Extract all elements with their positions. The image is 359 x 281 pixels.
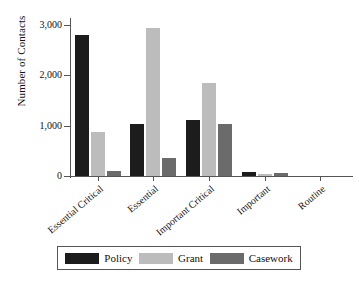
bar-casework bbox=[162, 158, 176, 176]
bar-group bbox=[242, 20, 288, 176]
bar-grant bbox=[202, 83, 216, 176]
bar-policy bbox=[75, 35, 89, 176]
bar-casework bbox=[218, 124, 232, 176]
x-axis-tick bbox=[209, 176, 210, 181]
x-axis-tick bbox=[320, 176, 321, 181]
bar-group bbox=[130, 20, 176, 176]
bar-policy bbox=[130, 124, 144, 176]
y-axis-tick-label: 0 bbox=[2, 171, 62, 181]
x-axis-line bbox=[70, 176, 353, 177]
y-axis-tick-label-wrap: 2,000 bbox=[0, 70, 62, 80]
bar-group bbox=[75, 20, 121, 176]
legend-label: Policy bbox=[104, 253, 132, 264]
bar-policy bbox=[242, 172, 256, 176]
legend-item[interactable]: Policy bbox=[65, 253, 132, 264]
legend-swatch-icon bbox=[65, 253, 99, 264]
bar-policy bbox=[186, 120, 200, 176]
legend-item[interactable]: Casework bbox=[210, 253, 293, 264]
bar-group bbox=[297, 20, 343, 176]
y-axis-tick-label: 3,000 bbox=[2, 20, 62, 30]
bar-grant bbox=[146, 28, 160, 176]
x-axis-tick bbox=[265, 176, 266, 181]
plot-area bbox=[70, 20, 348, 176]
x-axis-tick bbox=[153, 176, 154, 181]
bar-casework bbox=[107, 171, 121, 176]
legend-label: Grant bbox=[178, 253, 203, 264]
legend-swatch-icon bbox=[210, 253, 244, 264]
bar-group bbox=[186, 20, 232, 176]
legend-item[interactable]: Grant bbox=[139, 253, 203, 264]
y-axis-tick-label-wrap: 0 bbox=[0, 171, 62, 181]
x-axis-tick bbox=[98, 176, 99, 181]
bar-casework bbox=[274, 173, 288, 176]
legend-swatch-icon bbox=[139, 253, 173, 264]
chart-legend: PolicyGrantCasework bbox=[57, 246, 301, 270]
legend-label: Casework bbox=[249, 253, 293, 264]
y-axis-tick-label: 1,000 bbox=[2, 121, 62, 131]
y-axis-tick-label-wrap: 3,000 bbox=[0, 20, 62, 30]
bar-grant bbox=[91, 132, 105, 176]
bar-chart-figure: Number of Contacts 01,0002,0003,000 Esse… bbox=[0, 0, 359, 281]
y-axis-tick-label-wrap: 1,000 bbox=[0, 121, 62, 131]
y-axis-tick-label: 2,000 bbox=[2, 70, 62, 80]
